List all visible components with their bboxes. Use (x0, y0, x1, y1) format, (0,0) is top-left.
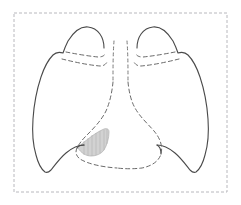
dashed-border-box (14, 13, 227, 192)
lung-diagram-figure: Anterior chest diagram of the lungs (0, 0, 241, 205)
lung-diagram-canvas (0, 0, 241, 205)
